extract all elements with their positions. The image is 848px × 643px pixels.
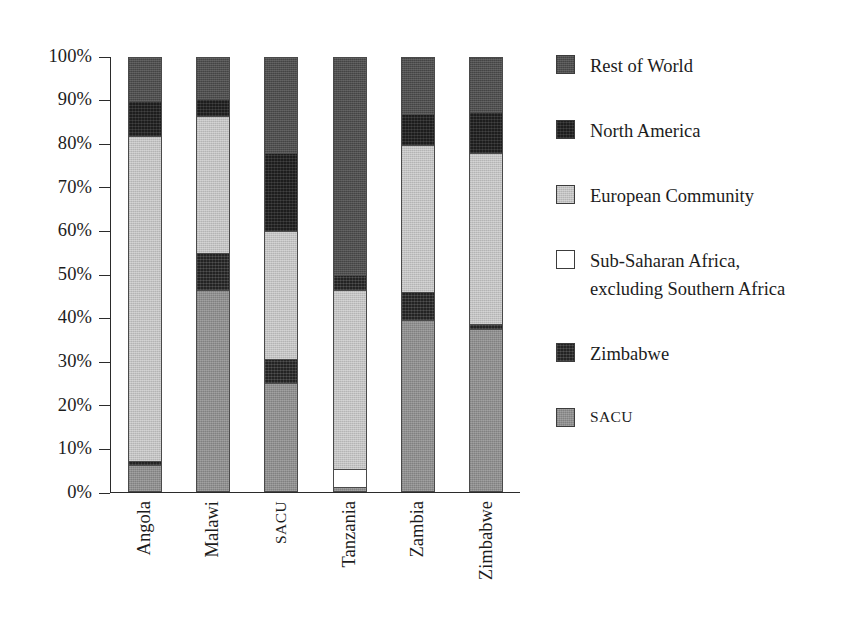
x-axis-slot: Zambia <box>383 495 451 635</box>
bar-segment-ec[interactable] <box>470 153 502 324</box>
legend-label: Zimbabwe <box>590 340 669 368</box>
stacked-bar[interactable] <box>128 57 162 492</box>
bar-segment-ec[interactable] <box>197 116 229 252</box>
legend-label-line2: excluding Southern Africa <box>590 275 785 303</box>
x-axis-tick-label: Tanzania <box>339 501 360 568</box>
y-axis-tick-label: 30% <box>58 352 92 371</box>
bar-slot <box>316 57 384 492</box>
bar-segment-ssa[interactable] <box>334 469 366 486</box>
bar-slot <box>452 57 520 492</box>
bar-segment-na[interactable] <box>470 112 502 153</box>
bar-segment-zw[interactable] <box>334 275 366 290</box>
bar-segment-row[interactable] <box>402 58 434 114</box>
y-axis-tick-label: 100% <box>48 47 92 66</box>
bar-slot <box>384 57 452 492</box>
legend-label: SACU <box>590 405 633 429</box>
legend-item[interactable]: European Community <box>556 182 848 210</box>
bar-segment-zw[interactable] <box>197 253 229 290</box>
bar-segment-row[interactable] <box>129 58 161 101</box>
y-axis-tick-label: 90% <box>58 90 92 109</box>
y-axis-tick-mark <box>99 449 110 450</box>
x-axis-tick-label: Malawi <box>202 501 223 558</box>
legend-item[interactable]: Rest of World <box>556 52 848 80</box>
bar-segment-sacu[interactable] <box>402 320 434 491</box>
y-axis-tick-label: 0% <box>67 483 92 502</box>
y-axis-tick-label: 10% <box>58 439 92 458</box>
bar-segment-ec[interactable] <box>402 145 434 292</box>
bar-slot <box>111 57 179 492</box>
y-axis-tick-label: 40% <box>58 308 92 327</box>
y-axis-tick-label: 70% <box>58 178 92 197</box>
bar-segment-sacu[interactable] <box>265 383 297 491</box>
bar-segment-ec[interactable] <box>265 231 297 359</box>
x-axis-tick-label: Zimbabwe <box>475 501 496 580</box>
plot-area <box>110 57 520 493</box>
bar-segment-sacu[interactable] <box>129 465 161 491</box>
legend-swatch-row <box>556 55 575 74</box>
legend-item[interactable]: North America <box>556 117 848 145</box>
bar-segment-ec[interactable] <box>334 290 366 470</box>
legend-item[interactable]: SACU <box>556 405 848 429</box>
stacked-bar[interactable] <box>401 57 435 492</box>
y-axis-tick-mark <box>99 275 110 276</box>
y-axis-tick-mark <box>99 493 110 494</box>
y-axis-tick-label: 20% <box>58 396 92 415</box>
x-axis-tick-label: Angola <box>134 501 155 555</box>
x-axis-slot: Tanzania <box>315 495 383 635</box>
x-axis-slot: Angola <box>110 495 178 635</box>
stacked-bar[interactable] <box>333 57 367 492</box>
y-axis-tick-mark <box>99 187 110 188</box>
legend-label: European Community <box>590 182 754 210</box>
stacked-bar[interactable] <box>264 57 298 492</box>
y-axis: 100%90%80%70%60%50%40%30%20%10%0% <box>0 57 110 493</box>
y-axis-tick-label: 60% <box>58 221 92 240</box>
y-axis-tick-mark <box>99 318 110 319</box>
bar-segment-row[interactable] <box>334 58 366 275</box>
bar-segment-na[interactable] <box>197 99 229 116</box>
legend-label: Rest of World <box>590 52 693 80</box>
bar-segment-na[interactable] <box>402 114 434 144</box>
legend-swatch-zw <box>556 343 575 362</box>
legend-swatch-ssa <box>556 250 575 269</box>
y-axis-tick-mark <box>99 231 110 232</box>
bar-segment-sacu[interactable] <box>197 290 229 491</box>
bar-group <box>111 57 520 492</box>
chart-legend: Rest of WorldNorth AmericaEuropean Commu… <box>556 52 848 465</box>
x-axis-slot: SACU <box>247 495 315 635</box>
x-axis-slot: Zimbabwe <box>452 495 520 635</box>
x-axis: AngolaMalawiSACUTanzaniaZambiaZimbabwe <box>110 495 520 635</box>
legend-item[interactable]: Sub-Saharan Africa,excluding Southern Af… <box>556 247 848 303</box>
y-axis-tick-label: 80% <box>58 134 92 153</box>
x-axis-tick-label: Zambia <box>407 501 428 558</box>
bar-segment-row[interactable] <box>470 58 502 112</box>
legend-item[interactable]: Zimbabwe <box>556 340 848 368</box>
bar-segment-sacu[interactable] <box>470 329 502 491</box>
bar-segment-na[interactable] <box>265 153 297 231</box>
y-axis-tick-mark <box>99 144 110 145</box>
bar-segment-ec[interactable] <box>129 136 161 461</box>
legend-label: Sub-Saharan Africa,excluding Southern Af… <box>590 247 785 303</box>
y-axis-tick-mark <box>99 362 110 363</box>
bar-segment-row[interactable] <box>265 58 297 153</box>
legend-swatch-na <box>556 120 575 139</box>
legend-swatch-ec <box>556 185 575 204</box>
legend-swatch-sacu <box>556 408 575 427</box>
bar-segment-row[interactable] <box>197 58 229 99</box>
bar-segment-na[interactable] <box>129 101 161 136</box>
x-axis-slot: Malawi <box>178 495 246 635</box>
stacked-bar[interactable] <box>196 57 230 492</box>
bar-slot <box>179 57 247 492</box>
bar-segment-sacu[interactable] <box>334 487 366 491</box>
bar-segment-zw[interactable] <box>402 292 434 320</box>
y-axis-tick-mark <box>99 405 110 406</box>
y-axis-tick-mark <box>99 57 110 58</box>
legend-label: North America <box>590 117 700 145</box>
x-axis-tick-label: SACU <box>272 501 290 544</box>
stacked-bar[interactable] <box>469 57 503 492</box>
y-axis-tick-mark <box>99 100 110 101</box>
stacked-bar-chart: 100%90%80%70%60%50%40%30%20%10%0% Angola… <box>0 0 848 643</box>
bar-slot <box>247 57 315 492</box>
bar-segment-zw[interactable] <box>265 359 297 383</box>
y-axis-tick-label: 50% <box>58 265 92 284</box>
